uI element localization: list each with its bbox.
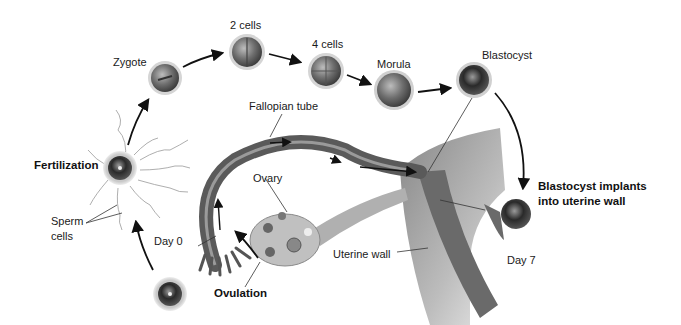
zygote-label: Zygote bbox=[113, 56, 147, 69]
ovary bbox=[250, 212, 320, 266]
blastocyst bbox=[456, 62, 492, 98]
fertilized-egg bbox=[88, 110, 190, 230]
fallopian-tube-label: Fallopian tube bbox=[249, 100, 318, 113]
day0-label: Day 0 bbox=[154, 235, 183, 248]
morula-label: Morula bbox=[377, 58, 411, 71]
fertilization-label: Fertilization bbox=[34, 159, 99, 172]
ovary-label: Ovary bbox=[253, 172, 282, 185]
zygote-cell bbox=[148, 61, 182, 95]
two-cell-embryo bbox=[229, 34, 265, 70]
sperm-cells-label-line1: Sperm bbox=[51, 215, 83, 228]
implanting-blastocyst bbox=[484, 199, 531, 240]
two-cells-label: 2 cells bbox=[230, 19, 261, 32]
morula bbox=[374, 70, 414, 110]
four-cells-label: 4 cells bbox=[312, 38, 343, 51]
day7-label: Day 7 bbox=[507, 254, 536, 267]
blastocyst-label: Blastocyst bbox=[482, 49, 532, 62]
egg-cell bbox=[153, 277, 187, 311]
sperm-cells-label-line2: cells bbox=[51, 230, 73, 243]
ovarian-ligament bbox=[315, 188, 408, 246]
uterine-wall-label: Uterine wall bbox=[333, 248, 390, 261]
implant-label-line2: into uterine wall bbox=[538, 195, 626, 208]
uterus bbox=[400, 128, 505, 325]
four-cell-embryo bbox=[308, 53, 344, 89]
implant-label-line1: Blastocyst implants bbox=[538, 180, 647, 193]
ovulation-label: Ovulation bbox=[214, 287, 267, 300]
